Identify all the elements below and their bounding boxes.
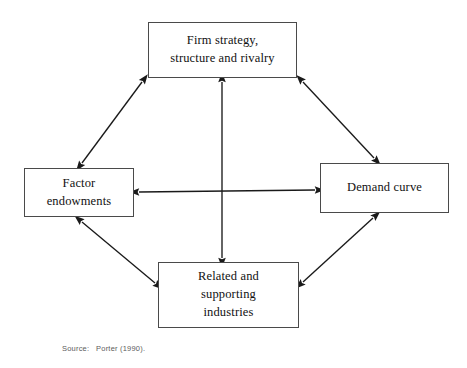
node-factor-endowments: Factor endowments	[24, 168, 134, 217]
connector-firm-to-demand	[303, 82, 374, 158]
node-related-supporting: Related and supporting industries	[158, 262, 299, 328]
node-demand-curve-label: Demand curve	[343, 179, 426, 197]
node-related-supporting-label: Related and supporting industries	[194, 268, 263, 321]
source-caption: Source: Porter (1990).	[62, 344, 145, 353]
connector-factor-to-related	[82, 222, 155, 283]
node-demand-curve: Demand curve	[320, 163, 449, 213]
node-factor-endowments-label: Factor endowments	[43, 175, 116, 211]
connector-firm-to-factor	[82, 82, 142, 163]
node-firm-strategy: Firm strategy, structure and rivalry	[148, 22, 297, 78]
porter-diamond-diagram: Firm strategy, structure and rivalry Fac…	[0, 0, 467, 368]
node-firm-strategy-label: Firm strategy, structure and rivalry	[166, 32, 279, 68]
connector-factor-to-demand	[139, 190, 315, 192]
connector-demand-to-related	[303, 218, 373, 282]
